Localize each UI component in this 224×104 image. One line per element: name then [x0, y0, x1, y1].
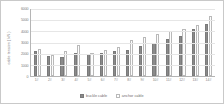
y-axis-title: cable tension ( kN ) — [4, 21, 14, 75]
x-axis-tick-label: 3# — [56, 78, 69, 86]
x-axis-tick-label: 12# — [175, 78, 188, 86]
bar-buckle — [139, 46, 142, 76]
y-axis-title-label: cable tension ( kN ) — [7, 32, 11, 65]
gridline — [31, 54, 215, 55]
x-axis-tick-label: 14# — [202, 78, 215, 86]
legend-item-anchor-cable: anchor cable — [116, 94, 143, 98]
bar-anchor — [209, 16, 212, 76]
bar-buckle — [192, 29, 195, 76]
x-axis-tick-label: 7# — [109, 78, 122, 86]
gridline — [31, 65, 215, 66]
x-axis-tick-label: 11# — [162, 78, 175, 86]
y-axis-ticks: 6000500040003000200010000 — [15, 9, 30, 77]
chart-figure: cable tension ( kN ) 6000500040003000200… — [0, 0, 224, 104]
bar-anchor — [77, 45, 80, 76]
legend-swatch-icon-anchor — [116, 94, 120, 98]
x-axis-tick-label: 13# — [189, 78, 202, 86]
chart-legend: buckle cable anchor cable — [1, 94, 223, 98]
y-axis-tick-label: 0 — [27, 75, 29, 79]
plot-area-wrapper: 6000500040003000200010000 — [15, 9, 215, 77]
legend-item-buckle-cable: buckle cable — [80, 94, 107, 98]
bar-anchor — [130, 40, 133, 76]
x-axis-tick-label: 10# — [149, 78, 162, 86]
x-axis-ticks: 1#2#3#4#5#6#7#8#9#10#11#12#13#14# — [30, 78, 215, 86]
legend-label-anchor: anchor cable — [122, 94, 144, 98]
x-axis-tick-label: 8# — [123, 78, 136, 86]
y-axis-tick-label: 1000 — [21, 64, 29, 68]
y-axis-tick-label: 3000 — [21, 41, 29, 45]
bar-buckle — [166, 39, 169, 76]
x-axis-tick-label: 1# — [30, 78, 43, 86]
legend-label-buckle: buckle cable — [86, 94, 107, 98]
x-axis-tick-label: 6# — [96, 78, 109, 86]
bar-anchor — [156, 34, 159, 76]
bar-anchor — [117, 47, 120, 76]
gridline — [31, 43, 215, 44]
bar-anchor — [182, 29, 185, 76]
bar-buckle — [60, 57, 63, 76]
plot-area — [30, 9, 215, 77]
x-axis-tick-label: 4# — [70, 78, 83, 86]
x-axis-tick-label: 9# — [136, 78, 149, 86]
y-axis-tick-label: 4000 — [21, 30, 29, 34]
bar-buckle — [47, 56, 50, 76]
legend-swatch-icon-buckle — [80, 94, 84, 98]
bar-anchor — [196, 25, 199, 76]
x-axis-tick-label: 5# — [83, 78, 96, 86]
gridline — [31, 20, 215, 21]
y-axis-tick-label: 6000 — [21, 7, 29, 11]
gridline — [31, 9, 215, 10]
bar-buckle — [152, 43, 155, 76]
x-axis-tick-label: 2# — [43, 78, 56, 86]
gridline — [31, 31, 215, 32]
y-axis-tick-label: 5000 — [21, 18, 29, 22]
y-axis-tick-label: 2000 — [21, 52, 29, 56]
